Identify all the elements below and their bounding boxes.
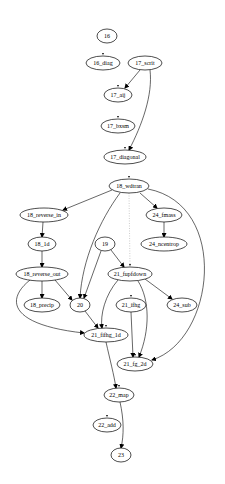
- edge-18_wdtran-to-18_reverse_in: [63, 190, 112, 210]
- edge-21_fupfdown-to-24_sub: [145, 279, 172, 299]
- node-18_reverse_out[interactable]: 18_reverse_out: [16, 267, 68, 281]
- node-label: 19: [102, 241, 108, 247]
- node-24_fmass[interactable]: 24_fmass: [146, 208, 182, 222]
- node-24_sub[interactable]: 24_sub: [167, 298, 197, 312]
- node-19[interactable]: 19: [95, 237, 115, 251]
- edge-path: [125, 70, 140, 88]
- node-17_diagonal[interactable]: 17_diagonal: [104, 147, 146, 164]
- edge-21_ifhg-to-21_fg_2d: [131, 312, 133, 357]
- edge-18_reverse_in-to-18_1d: [42, 222, 43, 237]
- edge-path: [145, 279, 172, 299]
- edge-path: [42, 222, 43, 237]
- node-label: 24_sub: [173, 302, 190, 308]
- node-label: 18_precip: [30, 302, 54, 308]
- node-label: 17_bxsm: [107, 123, 129, 129]
- edge-18_reverse_out-to-20: [55, 280, 72, 300]
- node-18_precip[interactable]: 18_precip: [24, 298, 60, 312]
- edge-path: [131, 312, 133, 357]
- node-label: 18_1d: [35, 241, 50, 247]
- dependency-graph: 1616_diag17_scrit17_aij17_bxsm17_diagona…: [0, 0, 225, 484]
- node-label: 16_diag: [93, 60, 112, 66]
- node-21_ifhg[interactable]: 21_ifhg: [116, 295, 146, 312]
- edge-path: [55, 280, 72, 300]
- node-17_aij[interactable]: 17_aij: [104, 85, 132, 102]
- port-marker-icon: [117, 85, 119, 87]
- node-17_scrit[interactable]: 17_scrit: [128, 56, 162, 70]
- node-label: 18_reverse_out: [24, 271, 61, 277]
- edge-path: [85, 311, 98, 328]
- edge-18_wdtran-to-24_fmass: [140, 193, 157, 208]
- node-label: 17_aij: [111, 92, 126, 98]
- node-label: 21_fupfdown: [114, 271, 146, 277]
- edge-17_scrit-to-17_aij: [125, 70, 140, 88]
- edge-path: [111, 250, 124, 267]
- port-marker-icon: [134, 354, 136, 356]
- edge-21_fifhg_1d-to-22_map: [106, 342, 116, 388]
- node-label: 21_ifhg: [122, 302, 141, 308]
- edge-path: [63, 190, 112, 210]
- node-18_wdtran[interactable]: 18_wdtran: [109, 176, 149, 193]
- node-20[interactable]: 20: [70, 298, 90, 312]
- edge-path: [138, 281, 147, 357]
- node-24_ncentrop[interactable]: 24_ncentrop: [141, 237, 187, 251]
- port-marker-icon: [124, 147, 126, 149]
- edge-17_scrit-to-17_diagonal: [129, 70, 150, 150]
- node-label: 20: [77, 302, 83, 308]
- edge-path: [84, 251, 101, 298]
- edge-18_wdtran-to-21_fupfdown: [129, 193, 130, 267]
- node-label: 17_scrit: [135, 60, 155, 66]
- node-layer: 1616_diag17_scrit17_aij17_bxsm17_diagona…: [16, 29, 197, 462]
- node-22_map[interactable]: 22_map: [104, 385, 134, 402]
- edge-path: [106, 342, 116, 388]
- edge-path: [129, 70, 150, 150]
- edge-19-to-21_fupfdown: [111, 250, 124, 267]
- edge-19-to-20: [84, 251, 101, 298]
- port-marker-icon: [106, 415, 108, 417]
- port-marker-icon: [130, 295, 132, 297]
- node-label: 16: [104, 33, 110, 39]
- node-label: 18_wdtran: [116, 183, 142, 189]
- node-17_bxsm[interactable]: 17_bxsm: [101, 116, 135, 133]
- node-21_fg_2d[interactable]: 21_fg_2d: [117, 354, 153, 371]
- node-label: 18_reverse_in: [27, 212, 61, 218]
- edge-20-to-21_fifhg_1d: [85, 311, 98, 328]
- node-label: 21_fifhg_1d: [91, 332, 121, 338]
- node-16_diag[interactable]: 16_diag: [86, 53, 120, 70]
- node-22_add[interactable]: 22_add: [93, 415, 121, 432]
- port-marker-icon: [102, 53, 104, 55]
- node-18_reverse_in[interactable]: 18_reverse_in: [20, 208, 68, 222]
- node-label: 24_fmass: [153, 212, 177, 218]
- edge-path: [140, 193, 157, 208]
- node-18_1d[interactable]: 18_1d: [28, 237, 56, 251]
- port-marker-icon: [105, 325, 107, 327]
- node-21_fupfdown[interactable]: 21_fupfdown: [108, 264, 152, 281]
- node-label: 24_ncentrop: [149, 241, 179, 247]
- node-label: 23: [118, 452, 124, 458]
- edge-path: [102, 280, 118, 328]
- port-marker-icon: [128, 176, 130, 178]
- edge-21_fupfdown-to-21_fg_2d: [138, 281, 147, 357]
- node-label: 22_add: [98, 422, 116, 428]
- node-16[interactable]: 16: [97, 29, 117, 43]
- port-marker-icon: [117, 116, 119, 118]
- edge-path: [129, 193, 130, 267]
- port-marker-icon: [129, 264, 131, 266]
- edge-21_fupfdown-to-21_fifhg_1d: [102, 280, 118, 328]
- port-marker-icon: [118, 385, 120, 387]
- node-label: 21_fg_2d: [124, 361, 147, 367]
- node-label: 17_diagonal: [110, 154, 140, 160]
- node-label: 22_map: [109, 392, 128, 398]
- node-21_fifhg_1d[interactable]: 21_fifhg_1d: [84, 325, 128, 342]
